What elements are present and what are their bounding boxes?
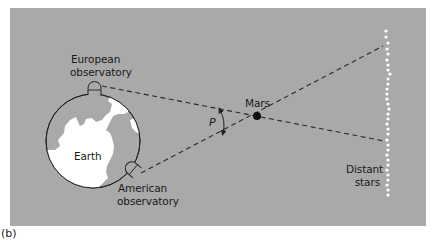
european-label-line2: observatory xyxy=(70,66,132,79)
european-observatory-label: European observatory xyxy=(70,53,132,79)
parallax-diagram xyxy=(0,0,435,240)
american-observatory-label: American observatory xyxy=(117,182,179,208)
european-observatory-icon xyxy=(88,82,101,96)
parallax-angle-label: P xyxy=(209,116,216,129)
earth-label: Earth xyxy=(74,150,102,163)
stars-label-line1: Distant xyxy=(346,163,380,176)
stars-label-line2: stars xyxy=(346,176,380,189)
mars-planet-icon xyxy=(253,112,261,120)
european-label-line1: European xyxy=(70,53,132,66)
american-label-line1: American xyxy=(117,182,179,195)
figure-caption: (b) xyxy=(1,227,17,240)
american-label-line2: observatory xyxy=(117,195,179,208)
distant-stars-label: Distant stars xyxy=(346,163,380,189)
mars-label: Mars xyxy=(245,97,270,110)
